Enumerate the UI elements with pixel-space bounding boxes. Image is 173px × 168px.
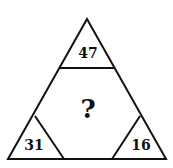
bottom-right-number: 16 (131, 137, 150, 153)
top-number: 47 (78, 45, 97, 61)
center-question-mark: ? (80, 94, 95, 124)
triangle-puzzle: 47 31 16 ? (0, 0, 173, 168)
bottom-left-number: 31 (24, 137, 43, 153)
